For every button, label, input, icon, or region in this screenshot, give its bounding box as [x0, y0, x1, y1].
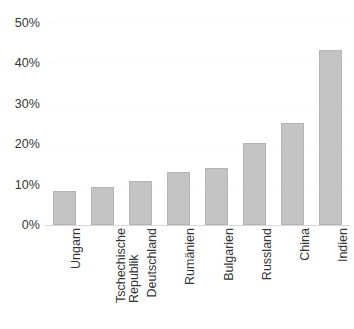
x-axis-category-label: Indien	[337, 228, 350, 262]
bar-slot	[281, 0, 304, 225]
bar-slot	[91, 0, 114, 225]
bar-series	[45, 0, 350, 225]
bar[interactable]	[53, 191, 76, 225]
bar[interactable]	[205, 168, 228, 225]
bar-slot	[167, 0, 190, 225]
y-axis-tick-label: 40%	[0, 57, 40, 70]
x-axis-category-label: Russland	[261, 228, 274, 280]
x-axis: UngarnTschechische RepublikDeutschlandRu…	[45, 228, 350, 329]
bar[interactable]	[129, 181, 152, 225]
bar[interactable]	[243, 143, 266, 225]
axis-baseline	[45, 225, 350, 226]
y-axis-tick-label: 0%	[0, 219, 40, 232]
y-axis-tick-label: 50%	[0, 17, 40, 30]
bar-slot	[243, 0, 266, 225]
bar[interactable]	[167, 172, 190, 225]
bar-slot	[319, 0, 342, 225]
x-axis-category-label: Bulgarien	[223, 228, 236, 281]
bar[interactable]	[91, 187, 114, 225]
bar-slot	[129, 0, 152, 225]
bar-chart: 0%10%20%30%40%50% UngarnTschechische Rep…	[0, 0, 354, 329]
x-axis-category-label: Tschechische Republik	[115, 228, 141, 303]
y-axis: 0%10%20%30%40%50%	[0, 0, 45, 237]
x-axis-category-label: Rumänien	[184, 228, 197, 285]
x-axis-category-label: Deutschland	[146, 228, 159, 298]
y-axis-tick-label: 10%	[0, 179, 40, 192]
bar-slot	[53, 0, 76, 225]
x-axis-category-label: Ungarn	[70, 228, 83, 269]
y-axis-tick-label: 20%	[0, 138, 40, 151]
y-axis-tick-label: 30%	[0, 98, 40, 111]
bar[interactable]	[281, 123, 304, 225]
bar-slot	[205, 0, 228, 225]
bar[interactable]	[319, 50, 342, 225]
x-axis-category-label: China	[299, 228, 312, 261]
